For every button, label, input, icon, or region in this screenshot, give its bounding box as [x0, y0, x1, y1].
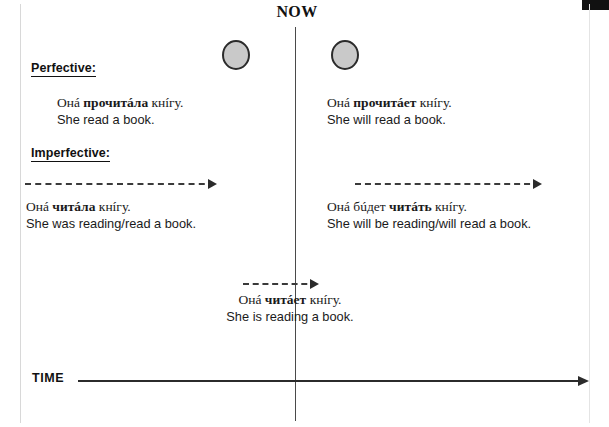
heading-perfective: Perfective:: [31, 61, 96, 75]
dashed-line: [355, 183, 540, 185]
ru-pre: Онá: [26, 199, 52, 214]
sentence-imperfective-present-russian: Онá читáет кнíгу.: [190, 291, 390, 308]
page-border-left: [20, 4, 21, 423]
russian-aspect-timeline-diagram: NOW Perfective: Онá прочитáла кнíгу. She…: [0, 0, 609, 427]
scan-artifact-mark: [582, 0, 609, 10]
arrowhead-icon: [310, 279, 319, 289]
sentence-imperfective-future-russian: Онá бúдет читáть кнíгу.: [327, 198, 531, 215]
sentence-perfective-future: Онá прочитáет кнíгу. She will read a boo…: [327, 94, 452, 128]
ru-pre: Онá: [239, 292, 265, 307]
ru-verb: прочитáла: [83, 95, 148, 110]
arrowhead-icon: [208, 179, 217, 189]
ru-post: кнíгу.: [416, 95, 451, 110]
sentence-imperfective-present-english: She is reading a book.: [190, 308, 390, 325]
completed-event-circle-past: [222, 40, 250, 70]
sentence-imperfective-past-english: She was reading/read a book.: [26, 215, 196, 232]
sentence-imperfective-future: Онá бúдет читáть кнíгу. She will be read…: [327, 198, 531, 232]
ru-post: кнíгу.: [148, 95, 183, 110]
arrowhead-icon: [533, 179, 542, 189]
dashed-line: [25, 183, 215, 185]
sentence-perfective-past: Онá прочитáла кнíгу. She read a book.: [57, 94, 183, 128]
heading-imperfective-label: Imperfective:: [31, 146, 110, 162]
sentence-perfective-past-russian: Онá прочитáла кнíгу.: [57, 94, 183, 111]
sentence-imperfective-present: Онá читáет кнíгу. She is reading a book.: [190, 291, 390, 325]
sentence-imperfective-future-english: She will be reading/will read a book.: [327, 215, 531, 232]
dashed-arrow-imperfective-past: [25, 183, 215, 185]
ru-pre: Онá: [327, 95, 353, 110]
ru-post: кнíгу.: [306, 292, 341, 307]
now-vertical-line: [295, 27, 296, 421]
time-axis-line: [78, 380, 586, 382]
ru-verb: читáть: [389, 199, 432, 214]
ru-verb: читáет: [265, 292, 306, 307]
sentence-perfective-past-english: She read a book.: [57, 111, 183, 128]
ru-verb: читáла: [52, 199, 95, 214]
ru-verb: прочитáет: [353, 95, 416, 110]
dashed-arrow-imperfective-present: [243, 283, 317, 285]
heading-perfective-label: Perfective:: [31, 61, 96, 77]
completed-event-circle-future: [331, 40, 359, 70]
time-axis-label: TIME: [32, 371, 64, 385]
dashed-line: [243, 283, 317, 285]
page-border-right: [589, 4, 590, 423]
arrowhead-icon: [578, 376, 589, 386]
sentence-perfective-future-russian: Онá прочитáет кнíгу.: [327, 94, 452, 111]
sentence-perfective-future-english: She will read a book.: [327, 111, 452, 128]
dashed-arrow-imperfective-future: [355, 183, 540, 185]
ru-post: кнíгу.: [95, 199, 130, 214]
sentence-imperfective-past: Онá читáла кнíгу. She was reading/read a…: [26, 198, 196, 232]
now-label: NOW: [262, 3, 332, 21]
sentence-imperfective-past-russian: Онá читáла кнíгу.: [26, 198, 196, 215]
ru-post: кнíгу.: [432, 199, 467, 214]
ru-pre: Онá бúдет: [327, 199, 389, 214]
ru-pre: Онá: [57, 95, 83, 110]
heading-imperfective: Imperfective:: [31, 146, 110, 160]
